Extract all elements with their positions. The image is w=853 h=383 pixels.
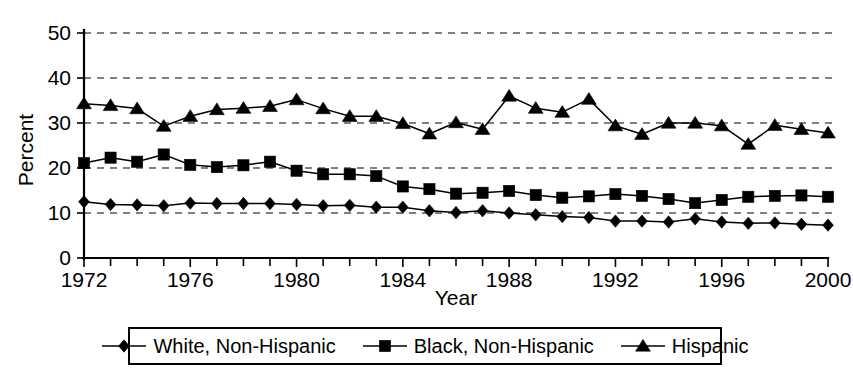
data-point [397,201,408,213]
data-point [743,217,754,229]
data-point [557,210,568,222]
data-point [344,169,355,180]
data-point [105,152,116,163]
data-point [264,156,275,167]
data-point [557,192,568,203]
x-tick-label-1996: 1996 [698,268,745,291]
x-tick-label-1972: 1972 [61,268,108,291]
data-point [823,219,834,231]
y-tick-labels-group: 01020304050 [48,21,71,269]
data-point [289,93,304,105]
data-point [397,181,408,192]
data-point [767,119,782,131]
legend-entry-2[interactable]: Hispanic [620,336,749,356]
x-tick-label-1992: 1992 [592,268,639,291]
data-point [663,216,674,228]
data-point [450,188,461,199]
data-point [769,217,780,229]
data-point [663,193,674,204]
data-point [318,200,329,212]
legend-entry-0[interactable]: White, Non-Hispanic [101,336,335,356]
data-point [344,199,355,211]
data-series-group [77,89,836,231]
data-point [637,215,648,227]
data-point [424,184,435,195]
data-point [132,156,143,167]
chart-legend: White, Non-HispanicBlack, Non-HispanicHi… [128,327,722,365]
data-point [105,198,116,210]
data-point [158,149,169,160]
data-point [741,138,756,150]
data-point [78,157,89,168]
data-point [502,89,517,101]
data-point [504,185,515,196]
y-tick-label-30: 30 [48,111,71,134]
data-point [635,128,650,140]
data-point [371,201,382,213]
data-point [822,191,833,202]
data-point [291,165,302,176]
data-point [530,189,541,200]
legend-entry-1[interactable]: Black, Non-Hispanic [362,336,594,356]
data-point [158,200,169,212]
data-point [185,197,196,209]
data-point [211,162,222,173]
x-tick-label-2000: 2000 [805,268,852,291]
y-axis-title: Percent [14,114,37,187]
legend-label: Hispanic [672,336,749,356]
data-point [690,213,701,225]
data-point [185,159,196,170]
y-tick-label-20: 20 [48,156,71,179]
x-tick-label-1980: 1980 [273,268,320,291]
data-point [581,93,596,105]
data-point [636,190,647,201]
x-tick-label-1984: 1984 [379,268,426,291]
data-point [530,209,541,221]
triangle-marker-icon [620,336,666,356]
data-point [796,190,807,201]
square-marker-icon [362,336,408,356]
data-point [583,191,594,202]
data-point [796,218,807,230]
data-point [610,215,621,227]
data-point [477,205,488,217]
data-point [422,127,437,139]
y-tick-label-50: 50 [48,21,71,44]
chart-plot-area: 01020304050 1972197619801984198819921996… [0,0,853,310]
y-tick-label-40: 40 [48,66,71,89]
data-point [769,190,780,201]
chart-figure: 01020304050 1972197619801984198819921996… [0,0,853,383]
data-point [238,160,249,171]
line-chart-svg: 01020304050 1972197619801984198819921996… [0,0,853,310]
data-point [265,197,276,209]
data-point [743,191,754,202]
data-point [504,207,515,219]
data-point [371,171,382,182]
data-point [316,102,331,114]
data-point [238,197,249,209]
x-axis-title: Year [435,286,477,309]
data-point [451,206,462,218]
data-point [79,196,90,208]
data-point [477,187,488,198]
data-point [424,205,435,217]
x-tick-label-1988: 1988 [486,268,533,291]
data-point [132,199,143,211]
diamond-marker-icon [101,336,147,356]
legend-label: White, Non-Hispanic [153,336,335,356]
data-point [716,216,727,228]
data-point [449,116,464,128]
x-tick-label-1976: 1976 [167,268,214,291]
data-point [690,198,701,209]
data-point [211,197,222,209]
data-point [156,120,171,132]
data-point [716,194,727,205]
series-2 [77,89,836,149]
data-point [610,189,621,200]
data-point [318,169,329,180]
data-point [77,97,92,109]
data-point [291,198,302,210]
y-tick-label-0: 0 [59,246,71,269]
legend-label: Black, Non-Hispanic [414,336,594,356]
y-tick-label-10: 10 [48,201,71,224]
